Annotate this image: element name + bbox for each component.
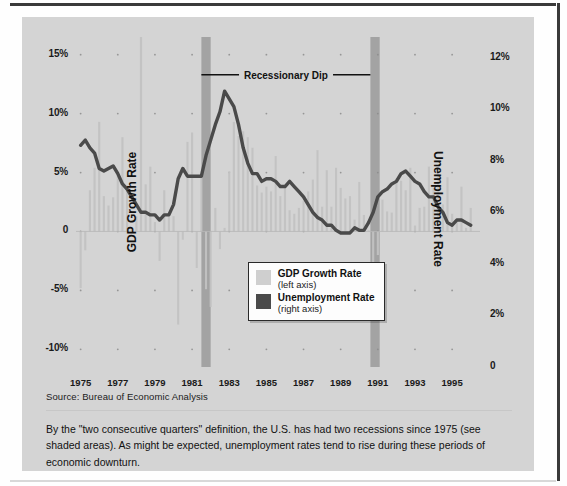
grid-dot — [80, 289, 82, 291]
chart-legend: GDP Growth Rate(left axis)Unemployment R… — [248, 262, 385, 321]
grid-dot — [117, 289, 119, 291]
grid-dot — [265, 54, 267, 56]
left-axis-tick: -5% — [51, 283, 68, 294]
gdp-bar — [191, 132, 193, 231]
legend-axis-note: (left axis) — [278, 280, 362, 290]
gdp-bar — [80, 231, 82, 288]
grid-dot — [414, 289, 416, 291]
gdp-bar — [210, 231, 212, 306]
gdp-bar — [312, 180, 314, 232]
gdp-bar — [279, 196, 281, 231]
grid-dot — [377, 348, 379, 350]
gdp-bar — [405, 190, 407, 231]
grid-dot — [451, 172, 453, 174]
gdp-bar — [349, 196, 351, 231]
legend-text: GDP Growth Rate(left axis) — [278, 269, 362, 290]
gdp-bar — [381, 200, 383, 232]
gdp-bar — [159, 231, 161, 260]
gdp-bar — [163, 190, 165, 231]
grid-dot — [451, 113, 453, 115]
gdp-bar — [298, 208, 300, 232]
gdp-bar — [196, 231, 198, 268]
gdp-bar — [256, 186, 258, 232]
grid-dot — [80, 113, 82, 115]
gdp-bar — [103, 196, 105, 231]
gdp-bar — [302, 201, 304, 232]
x-axis-tick: 1977 — [107, 377, 128, 388]
grid-dot — [117, 348, 119, 350]
gdp-bar — [117, 175, 119, 232]
grid-dot — [265, 348, 267, 350]
gdp-bar — [307, 191, 309, 231]
grid-dot — [414, 113, 416, 115]
top-divider-rule — [10, 3, 556, 6]
x-axis-tick: 1993 — [404, 377, 425, 388]
gdp-bar — [270, 191, 272, 231]
x-axis-tick: 1983 — [219, 377, 240, 388]
legend-entry-2: Unemployment Rate(right axis) — [256, 293, 375, 314]
left-axis-tick: 15% — [49, 48, 68, 59]
grid-dot — [451, 289, 453, 291]
gdp-bar — [344, 198, 346, 231]
gdp-bar — [205, 231, 207, 289]
legend-swatch-icon — [256, 270, 271, 285]
legend-text: Unemployment Rate(right axis) — [278, 293, 375, 314]
left-axis-title: GDP Growth Rate — [125, 152, 139, 252]
gdp-bar — [358, 182, 360, 232]
gdp-bar — [460, 187, 462, 232]
gdp-bar — [94, 168, 96, 232]
gdp-bar — [145, 184, 147, 231]
right-axis-tick: 2% — [490, 308, 504, 319]
grid-dot — [451, 348, 453, 350]
gdp-bar — [251, 148, 253, 232]
legend-entry-1: GDP Growth Rate(left axis) — [256, 269, 375, 290]
grid-dot — [80, 54, 82, 56]
gdp-bar — [395, 178, 397, 231]
gdp-bar — [98, 122, 100, 232]
grid-dot — [191, 289, 193, 291]
right-axis-tick: 12% — [490, 51, 509, 62]
gdp-bar — [289, 210, 291, 231]
x-axis-tick: 1985 — [256, 377, 277, 388]
grid-dot — [265, 172, 267, 174]
legend-swatch-icon — [256, 294, 271, 309]
gdp-bar — [419, 208, 421, 232]
x-axis-tick: 1989 — [330, 377, 351, 388]
gdp-bar — [200, 174, 202, 232]
gdp-bar — [293, 214, 295, 232]
grid-dot — [340, 113, 342, 115]
gdp-bar — [112, 197, 114, 231]
grid-dot — [191, 54, 193, 56]
grid-dot — [303, 348, 305, 350]
gdp-bar — [186, 142, 188, 232]
left-axis-tick: -10% — [45, 342, 68, 353]
right-axis-tick: 6% — [490, 205, 504, 216]
gdp-bar — [261, 193, 263, 232]
gdp-bar — [228, 171, 230, 231]
grid-dot — [340, 348, 342, 350]
gdp-bar — [428, 167, 430, 232]
gdp-bar — [214, 208, 216, 232]
grid-dot — [414, 348, 416, 350]
chart-panel: GDP Growth Rate Unemployment Rate Recess… — [22, 17, 534, 471]
grid-dot — [154, 348, 156, 350]
gdp-bar — [224, 228, 226, 232]
grid-dot — [228, 113, 230, 115]
grid-dot — [228, 289, 230, 291]
gdp-bar — [140, 37, 142, 231]
gdp-bar — [107, 206, 109, 232]
figure-caption: By the "two consecutive quarters" defini… — [46, 421, 516, 470]
gdp-bar — [177, 231, 179, 324]
grid-dot — [228, 348, 230, 350]
gdp-bar — [423, 207, 425, 232]
plot-area: GDP Growth Rate Unemployment Rate Recess… — [76, 37, 480, 367]
right-axis-tick: 4% — [490, 257, 504, 268]
gdp-bar — [456, 222, 458, 231]
gdp-bar — [237, 136, 239, 231]
grid-dot — [303, 54, 305, 56]
gdp-bar — [335, 168, 337, 232]
grid-dot — [154, 289, 156, 291]
figure-page: GDP Growth Rate Unemployment Rate Recess… — [0, 0, 567, 486]
gdp-bar — [414, 226, 416, 232]
gdp-bar — [84, 231, 86, 250]
